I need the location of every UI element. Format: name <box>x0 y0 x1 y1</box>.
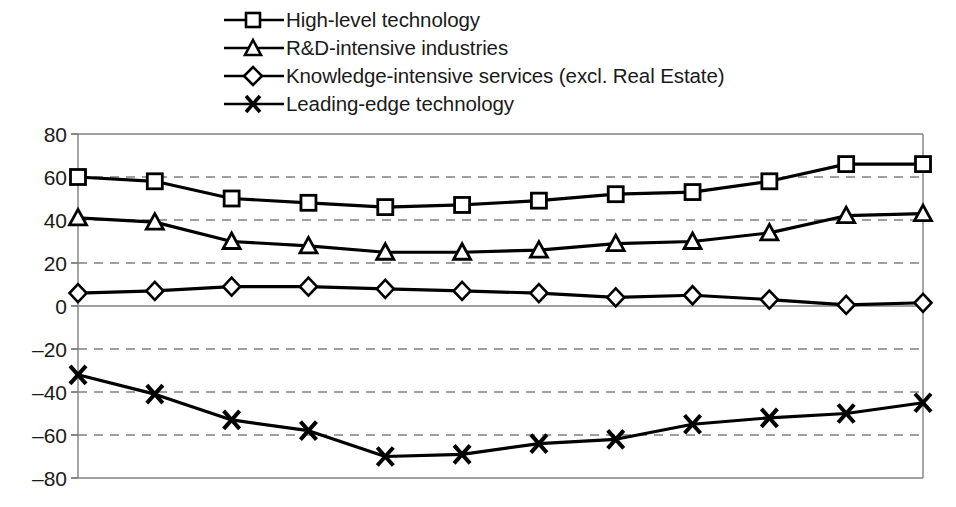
data-point-diamond <box>607 288 624 306</box>
y-axis-tick-label: –40 <box>32 381 67 404</box>
data-point-diamond <box>454 282 471 300</box>
data-point-square <box>455 197 470 212</box>
data-point-square <box>378 200 393 215</box>
y-axis-tick-label: –20 <box>32 338 67 361</box>
y-axis-tick-label: 60 <box>44 166 67 189</box>
data-point-square <box>685 185 700 200</box>
y-axis-tick-label: 80 <box>44 123 67 146</box>
chart-legend: High-level technology R&D-intensive indu… <box>222 6 724 118</box>
legend-label: R&D-intensive industries <box>286 35 508 61</box>
data-point-square <box>301 195 316 210</box>
legend-label: High-level technology <box>286 7 480 33</box>
data-point-diamond <box>146 282 163 300</box>
legend-marker-triangle <box>222 35 286 61</box>
data-point-diamond <box>684 286 701 304</box>
data-point-diamond <box>838 296 855 314</box>
legend-item: High-level technology <box>222 6 724 34</box>
data-point-diamond <box>915 294 932 312</box>
y-axis-tick-label: 40 <box>44 209 67 232</box>
data-point-diamond <box>530 284 547 302</box>
line-chart: High-level technology R&D-intensive indu… <box>0 0 956 507</box>
legend-marker-square <box>222 7 286 33</box>
data-point-square <box>839 157 854 172</box>
legend-label: Knowledge-intensive services (excl. Real… <box>286 63 724 89</box>
y-axis-tick-label: 0 <box>55 295 67 318</box>
data-point-square <box>608 187 623 202</box>
y-axis-tick-label: –80 <box>32 467 67 490</box>
legend-item: Leading-edge technology <box>222 90 724 118</box>
data-point-square <box>531 193 546 208</box>
series-line <box>78 164 923 207</box>
legend-marker-cross <box>222 91 286 117</box>
series-line <box>78 375 923 457</box>
data-point-square <box>147 174 162 189</box>
legend-item: R&D-intensive industries <box>222 34 724 62</box>
data-point-square <box>762 174 777 189</box>
legend-item: Knowledge-intensive services (excl. Real… <box>222 62 724 90</box>
y-axis-tick-label: –60 <box>32 424 67 447</box>
legend-marker-diamond <box>222 63 286 89</box>
y-axis-tick-label: 20 <box>44 252 67 275</box>
legend-label: Leading-edge technology <box>286 91 514 117</box>
series-line <box>78 287 923 305</box>
data-point-diamond <box>223 278 240 296</box>
data-point-square <box>916 157 931 172</box>
data-point-diamond <box>70 284 87 302</box>
data-point-square <box>224 191 239 206</box>
data-point-square <box>71 170 86 185</box>
data-point-diamond <box>377 280 394 298</box>
data-point-diamond <box>300 278 317 296</box>
